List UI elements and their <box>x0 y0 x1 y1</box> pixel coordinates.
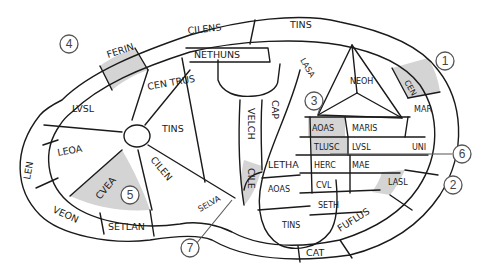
callout-3: 3 <box>305 92 323 110</box>
inscription-ring-right-3: UNI <box>412 143 426 152</box>
inscription-wheel-3: LEOA <box>56 143 83 158</box>
inscription-lobe-3: LETHA <box>268 159 299 170</box>
pyramid-edge-3 <box>357 93 402 118</box>
callout-5: 5 <box>121 186 139 204</box>
inscription-grid-4: LVSL <box>352 143 371 152</box>
inscription-grid-5: HERC <box>314 161 336 170</box>
inscription-lobe-2: LASA <box>298 57 316 80</box>
inscription-ring-right-4: LASL <box>388 178 408 187</box>
ring-divider-f <box>100 213 104 234</box>
inscription-wheel-4: TINS <box>161 123 184 134</box>
inscription-ring-bottom: CAT <box>306 247 324 258</box>
svg-text:5: 5 <box>127 188 134 202</box>
inscription-grid-6: MAE <box>352 161 369 170</box>
inscription-wheel-7: SELVA <box>197 194 223 214</box>
callout-7: 7 <box>181 239 199 257</box>
inscription-lobe-4: AOAS <box>268 185 290 194</box>
inscription-ring-left: LEN <box>21 160 35 180</box>
inscription-grid-7: CVL <box>316 181 332 190</box>
inscription-grid-1: AOAS <box>312 124 334 133</box>
inscription-wheel-2: LVSL <box>72 103 95 114</box>
inscription-ring-top-mid: CILENS <box>187 22 222 36</box>
wheel-hub <box>124 125 150 147</box>
svg-text:2: 2 <box>450 178 457 192</box>
center-strip-right <box>261 100 262 170</box>
inscription-grid-2: MARIS <box>352 124 377 133</box>
callout-2: 2 <box>444 176 462 194</box>
lobe-cell-line-1 <box>262 175 300 178</box>
inscription-center-top: NETHUNS <box>194 49 240 60</box>
svg-text:7: 7 <box>187 241 194 255</box>
inscription-ring-bottom-mid: SETLAN <box>108 221 145 232</box>
svg-text:3: 3 <box>311 94 318 108</box>
inscription-center-strip: VELCH <box>246 108 257 140</box>
ring-divider-g <box>150 210 154 236</box>
svg-text:4: 4 <box>66 37 73 51</box>
right-grid-v1 <box>345 117 348 137</box>
right-grid-v4 <box>405 117 408 137</box>
lobe-cell-line-2 <box>258 206 310 210</box>
wheel-divider-1 <box>132 70 148 120</box>
callout-1: 1 <box>436 52 454 70</box>
inscription-center-shaded: CILE <box>246 168 257 189</box>
ring-divider-c <box>250 20 255 44</box>
inscription-grid-3: TLUSC <box>313 143 340 152</box>
inscription-pyramid: NEOH <box>350 77 373 86</box>
liver-of-piacenza-diagram: FERIN CILENS TINS LEN VEON SETLAN FUFLUS… <box>0 0 488 278</box>
inscription-grid-8: SETH <box>318 201 339 210</box>
svg-text:6: 6 <box>459 147 466 161</box>
inscription-ring-top-right: TINS <box>289 19 312 30</box>
callout-4: 4 <box>60 35 78 53</box>
inscription-lobe-1: CAP <box>270 100 281 119</box>
svg-text:1: 1 <box>442 54 449 68</box>
inscription-ring-right-2: MAR <box>414 105 432 114</box>
inscription-lobe-5: TINS <box>281 221 300 230</box>
callout-6: 6 <box>453 145 471 163</box>
ring-divider-j <box>405 170 438 175</box>
bowl-shape <box>218 60 280 96</box>
